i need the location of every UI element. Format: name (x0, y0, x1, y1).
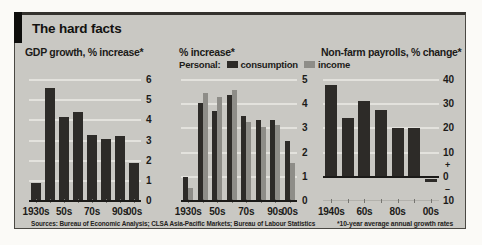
x-tick-mark (381, 199, 382, 203)
gdp-growth-y-axis: 6543210 (146, 80, 168, 201)
bar-slot-1990s (113, 80, 127, 201)
y-tick-label: 2 (302, 148, 308, 158)
bar-slot-1940s (323, 80, 340, 201)
bar-1940s (45, 88, 55, 201)
bar-1940s (325, 85, 337, 177)
bar-slot-1990s (406, 80, 423, 201)
chart-card: The hard facts GDP growth, % increase* %… (14, 12, 466, 229)
x-label-slot (340, 206, 357, 219)
bar-slot-1950s (57, 80, 71, 201)
bar-slot-2000s (127, 80, 141, 201)
x-label-slot (225, 206, 240, 219)
legend-prefix: Personal: (179, 59, 221, 70)
x-label-slot (406, 206, 423, 219)
y-tick-label: 30 (443, 99, 454, 109)
bar-1980s (101, 139, 111, 201)
chart-title: The hard facts (32, 21, 121, 36)
personal-increase-y-axis: 543210 (302, 80, 324, 201)
bar-1970s (87, 135, 97, 201)
x-label-slot (99, 206, 113, 219)
x-label-slot (43, 206, 57, 219)
payrolls-x-axis: 1940s60s80s00s (323, 206, 439, 219)
y-tick-label: + (445, 160, 450, 169)
bar-slots (181, 80, 297, 201)
bar-1990s (115, 136, 125, 201)
x-tick-mark (398, 199, 399, 203)
x-label-slot: 50s (57, 206, 71, 219)
x-label-slot: 50s (210, 206, 225, 219)
x-tick-label: 70s (84, 206, 100, 218)
bar-slots (323, 80, 439, 201)
bar-slot-1940s (43, 80, 57, 201)
x-tick-label: 00s (126, 206, 142, 218)
bar-2000s (425, 179, 437, 183)
bar-income-1940s (203, 93, 208, 201)
panel-personal-heading: % increase* (179, 46, 235, 58)
y-tick-label: – (445, 184, 450, 193)
x-tick-mark (331, 199, 332, 203)
x-tick-label: 50s (209, 206, 225, 218)
x-tick-label: 60s (356, 206, 372, 218)
x-axis-line (323, 176, 439, 178)
bar-slot-1990s (268, 80, 283, 201)
y-tick-label: 0 (146, 196, 152, 206)
y-tick-label: 3 (302, 123, 308, 133)
bar-income-1990s (275, 125, 280, 201)
y-tick-label: 4 (146, 115, 152, 125)
y-tick-label: 1 (302, 172, 308, 182)
bar-slot-1960s (356, 80, 373, 201)
y-tick-label: 0 (302, 196, 308, 206)
panel-gdp-heading: GDP growth, % increase* (25, 46, 143, 58)
bar-1950s (59, 117, 69, 201)
x-label-slot: 60s (356, 206, 373, 219)
y-tick-label: 10 (443, 148, 454, 158)
personal-increase-x-axis: 1930s50s70s90s00s (181, 206, 297, 219)
x-label-slot: 70s (239, 206, 254, 219)
bar-income-1960s (232, 90, 237, 201)
bar-slot-1950s (210, 80, 225, 201)
legend-swatch-consumption (227, 61, 238, 68)
bar-slot-1970s (239, 80, 254, 201)
bar-1950s (342, 118, 354, 177)
x-tick-label: 70s (238, 206, 254, 218)
bar-slot-2000s (283, 80, 298, 201)
y-tick-label: 4 (302, 99, 308, 109)
payrolls-plot (323, 80, 439, 201)
y-tick-label: 10 (443, 196, 454, 206)
x-axis-line (29, 200, 141, 202)
bar-income-1950s (217, 97, 222, 201)
y-tick-label: 1 (146, 176, 152, 186)
bar-slot-1940s (196, 80, 211, 201)
panel-payrolls-heading: Non-farm payrolls, % change* (321, 46, 461, 58)
legend-label-consumption: consumption (241, 59, 298, 70)
bar-slot-1930s (29, 80, 43, 201)
bar-slot-1980s (254, 80, 269, 201)
y-tick-label: 5 (146, 95, 152, 105)
x-label-slot: 1930s (29, 206, 43, 219)
x-label-slot: 00s (127, 206, 141, 219)
gdp-growth-plot (29, 80, 141, 201)
x-label-slot: 90s (268, 206, 283, 219)
bar-slots (29, 80, 141, 201)
x-label-slot: 00s (283, 206, 298, 219)
x-label-slot: 80s (389, 206, 406, 219)
x-tick-mark (364, 199, 365, 203)
bar-1970s (375, 110, 387, 177)
bar-slot-1930s (181, 80, 196, 201)
bar-slot-1980s (389, 80, 406, 201)
bar-1990s (408, 128, 420, 176)
bar-1960s (73, 112, 83, 201)
legend-label-income: income (318, 59, 350, 70)
y-tick-label: 0 (443, 172, 449, 182)
x-tick-label: 50s (56, 206, 72, 218)
bar-income-2000s (290, 163, 295, 201)
x-label-slot (373, 206, 390, 219)
legend: Personal: consumption income (179, 59, 350, 70)
y-tick-label: 5 (302, 75, 308, 85)
x-tick-label: 00s (282, 206, 298, 218)
bar-slot-1960s (71, 80, 85, 201)
x-label-slot (254, 206, 269, 219)
x-label-slot: 90s (113, 206, 127, 219)
y-tick-label: 3 (146, 136, 152, 146)
bar-slot-1980s (99, 80, 113, 201)
